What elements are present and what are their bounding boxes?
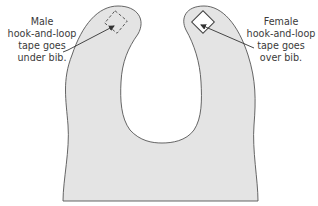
male-label-line-1: Male <box>31 16 54 27</box>
male-label-line-2: hook-and-loop <box>8 28 77 39</box>
female-label-line-3: tape goes <box>257 40 305 51</box>
bib-shape <box>63 6 258 201</box>
male-label: Male hook-and-loop tape goes under bib. <box>8 16 77 63</box>
female-label: Female hook-and-loop tape goes over bib. <box>247 16 316 63</box>
female-label-line-2: hook-and-loop <box>247 28 316 39</box>
male-label-line-3: tape goes <box>18 40 66 51</box>
bib-diagram: Male hook-and-loop tape goes under bib. … <box>0 0 318 206</box>
male-label-line-4: under bib. <box>17 52 66 63</box>
female-label-line-4: over bib. <box>260 52 302 63</box>
female-label-line-1: Female <box>264 16 299 27</box>
